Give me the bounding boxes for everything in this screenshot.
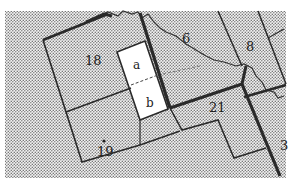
parcel-label-3: 3 <box>280 138 288 153</box>
parcel-label-18: 18 <box>85 53 102 68</box>
marker-dot-19 <box>102 139 105 142</box>
parcel-label-b: b <box>146 96 154 110</box>
parcel-label-19: 19 <box>97 144 114 159</box>
parcel-label-a: a <box>133 58 140 72</box>
parcel-map: 18 19 a b 6 8 21 3 <box>0 0 302 184</box>
parcel-label-6: 6 <box>182 31 190 46</box>
map-svg: 18 19 a b 6 8 21 3 <box>0 0 302 184</box>
parcel-label-8: 8 <box>246 39 254 54</box>
parcel-label-21: 21 <box>209 100 226 115</box>
